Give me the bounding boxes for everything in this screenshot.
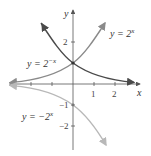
y-tick-neg2: −2: [59, 121, 69, 131]
label-2-pow-neg-x: y = 2−x: [26, 57, 57, 69]
point-0-neg1: [72, 104, 75, 107]
graph-canvas: y x 1 2 2 −1 −2 y = 2x y = 2−x y = −2x: [0, 0, 151, 156]
y-tick-2: 2: [63, 37, 68, 47]
y-axis-label: y: [63, 8, 69, 19]
x-tick-1: 1: [91, 89, 96, 99]
x-axis-label: x: [136, 87, 142, 98]
y-tick-neg1: −1: [59, 100, 69, 110]
point-0-1: [71, 61, 74, 64]
x-tick-2: 2: [112, 89, 117, 99]
label-2-pow-x: y = 2x: [109, 27, 135, 39]
label-neg-2-pow-x: y = −2x: [21, 110, 54, 122]
